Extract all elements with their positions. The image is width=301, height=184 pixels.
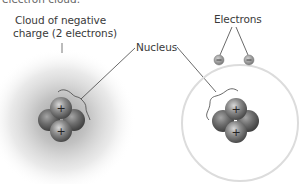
electrons-leader-right — [236, 27, 248, 55]
proton-plus-icon: + — [56, 125, 65, 138]
orbit-model: + + — [182, 27, 298, 181]
electron-cloud-model: + + — [0, 43, 136, 184]
right-nucleus: + + — [212, 98, 259, 143]
electrons-label: Electrons — [214, 13, 262, 25]
cloud-label-line2: charge (2 electrons) — [13, 27, 117, 39]
proton-plus-icon: + — [231, 126, 240, 139]
proton-plus-icon: + — [231, 103, 240, 116]
electron-2 — [244, 55, 254, 65]
proton-plus-icon: + — [56, 102, 65, 115]
electrons-leader-left — [220, 27, 232, 55]
cloud-label-line1: Cloud of negative — [15, 14, 106, 26]
top-cut-text: electron cloud. — [2, 0, 80, 5]
nucleus-label: Nucleus — [136, 41, 177, 53]
electron-1 — [214, 55, 224, 65]
atom-diagram: + + — [0, 0, 301, 184]
